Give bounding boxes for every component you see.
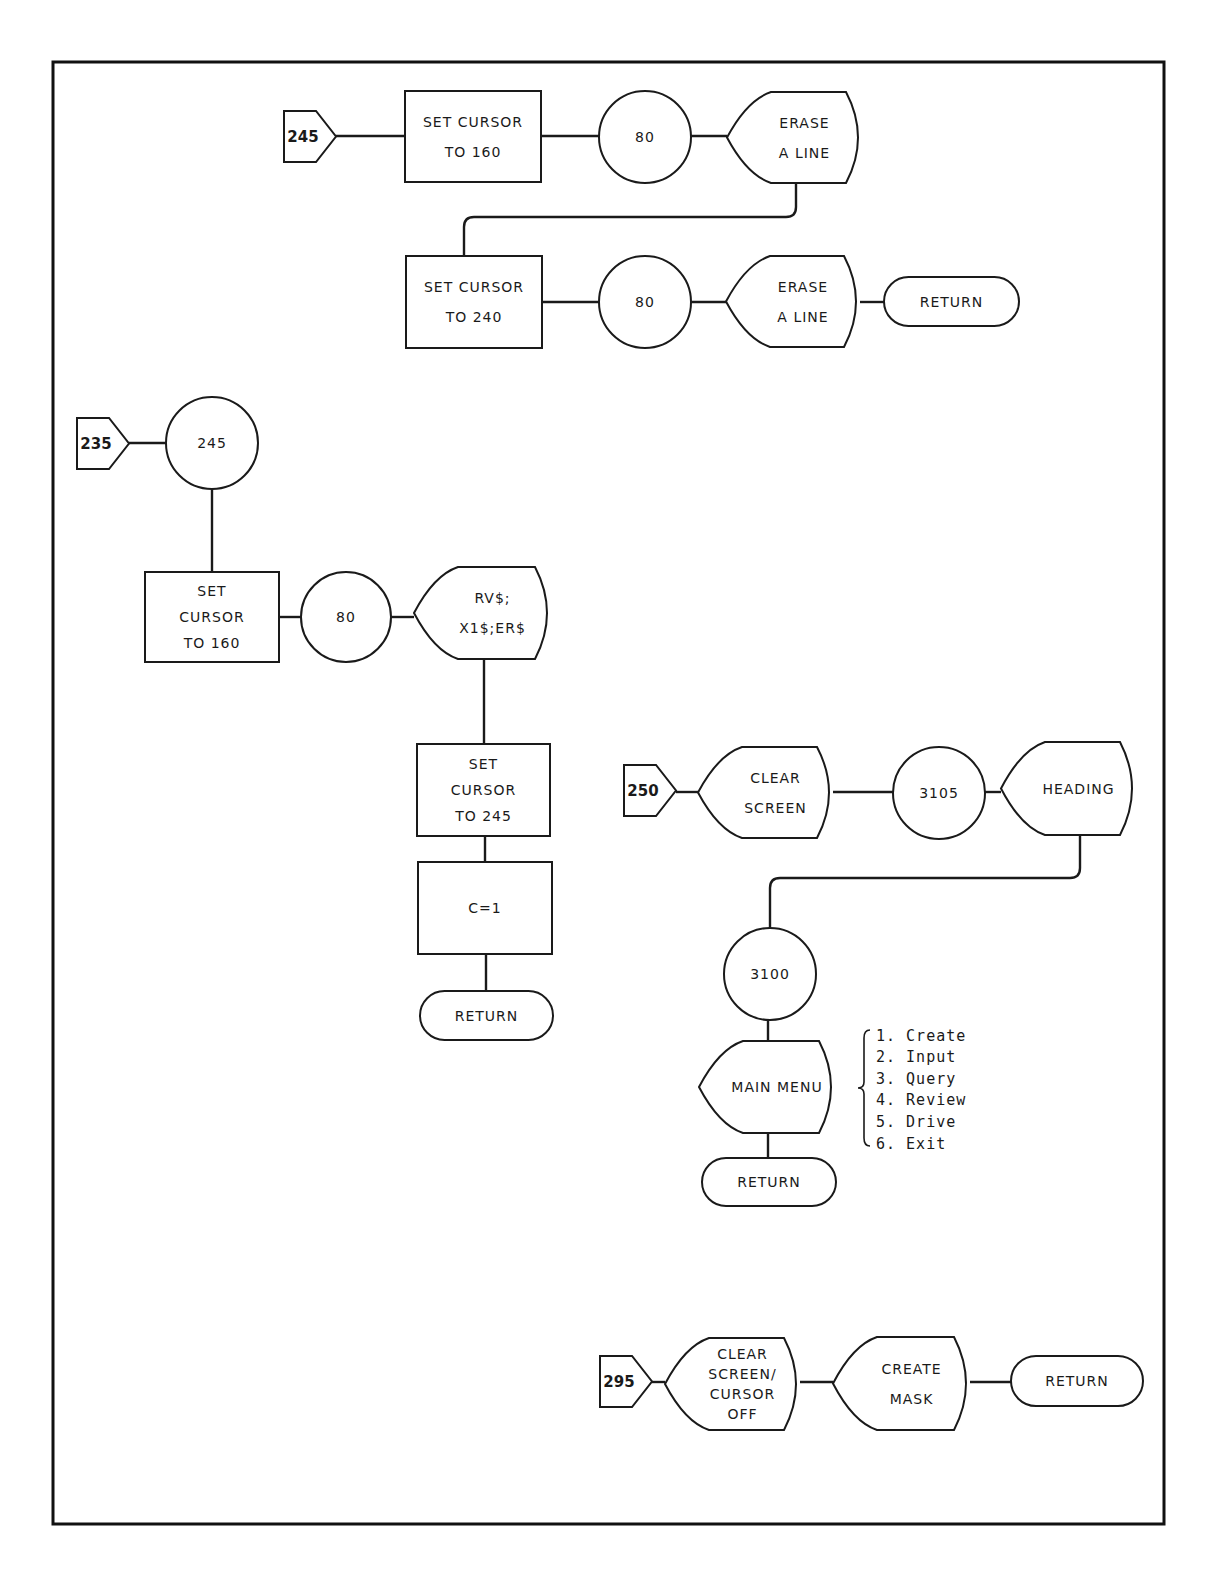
menu-option: 5. Drive [876,1113,956,1131]
node-label-line: HEADING [1042,781,1114,797]
node-label-line: A LINE [779,145,830,161]
node-label-line: TO 240 [445,309,503,325]
f235-call-245[interactable]: 245 [166,397,258,489]
f245-erase-line-b[interactable]: ERASEA LINE [726,256,856,347]
flowchart-canvas: 245SET CURSORTO 16080ERASEA LINESET CURS… [0,0,1212,1569]
node-label-line: 245 [197,435,227,451]
f245-call-80-b[interactable]: 80 [599,256,691,348]
node-label-line: CREATE [881,1361,941,1377]
node-label-line: A LINE [777,309,828,325]
node-label-line: TO 160 [444,144,502,160]
node-label-line: C=1 [468,900,501,916]
node-label-line: 80 [635,294,655,310]
node-label-line: OFF [727,1406,757,1422]
flow-250: 250CLEARSCREEN3105HEADING3100MAIN MENURE… [624,742,1132,1206]
node-label-line: MAIN MENU [731,1079,822,1095]
f245-return[interactable]: RETURN [884,277,1019,326]
node-label-line: 3100 [750,966,790,982]
f245-set-cursor-160[interactable]: SET CURSORTO 160 [405,91,541,182]
node-label-line: ERASE [779,115,829,131]
node-label-line: SET [469,756,498,772]
entry-tag[interactable]: 295 [600,1356,652,1407]
node-label-line: 3105 [919,785,959,801]
main-menu-options: 1. Create2. Input3. Query4. Review5. Dri… [858,1027,966,1153]
node-label-line: CURSOR [179,609,244,625]
node-label-line: 80 [635,129,655,145]
menu-option: 3. Query [876,1070,956,1088]
process-box-shape [406,256,542,348]
node-label-line: CURSOR [710,1386,775,1402]
node-label-line: ERASE [778,279,828,295]
flow-295: 295CLEARSCREEN/CURSOROFFCREATEMASKRETURN [600,1337,1143,1430]
menu-option: 1. Create [876,1027,966,1045]
node-label-line: X1$;ER$ [459,620,526,636]
node-label-line: SCREEN/ [708,1366,776,1382]
f250-heading[interactable]: HEADING [1001,742,1132,835]
entry-tag[interactable]: 245 [284,111,336,162]
f245-call-80-a[interactable]: 80 [599,91,691,183]
node-label-line: SCREEN [744,800,807,816]
menu-option: 4. Review [876,1091,966,1109]
node-label-line: SET [197,583,226,599]
display-shape [726,256,856,347]
f295-return[interactable]: RETURN [1011,1356,1143,1406]
entry-tag-label: 245 [287,128,318,146]
f235-print-rv[interactable]: RV$;X1$;ER$ [414,567,547,659]
f235-set-cursor-160[interactable]: SETCURSORTO 160 [145,572,279,662]
process-box-shape [405,91,541,182]
menu-option: 6. Exit [876,1135,946,1153]
node-label-line: TO 160 [183,635,241,651]
node-label-line: RETURN [920,294,984,310]
node-label-line: 80 [336,609,356,625]
f245-set-cursor-240[interactable]: SET CURSORTO 240 [406,256,542,348]
f245-erase-line-a[interactable]: ERASEA LINE [727,92,858,183]
flow-245: 245SET CURSORTO 16080ERASEA LINESET CURS… [284,91,1019,348]
node-label-line: SET CURSOR [423,114,523,130]
f235-return[interactable]: RETURN [420,991,553,1040]
entry-tag-label: 235 [80,435,111,453]
node-label-line: RETURN [455,1008,519,1024]
f235-c-equals-1[interactable]: C=1 [418,862,552,954]
entry-tag[interactable]: 250 [624,765,676,816]
node-label-line: RETURN [737,1174,801,1190]
node-label-line: CLEAR [750,770,801,786]
node-label-line: SET CURSOR [424,279,524,295]
node-label-line: TO 245 [454,808,512,824]
f295-create-mask[interactable]: CREATEMASK [833,1337,966,1430]
node-label-line: CLEAR [717,1346,768,1362]
f235-set-cursor-245[interactable]: SETCURSORTO 245 [417,744,550,836]
connector-line [464,183,796,256]
curly-brace-icon [858,1030,870,1146]
f250-clear-screen[interactable]: CLEARSCREEN [698,747,829,838]
f250-main-menu[interactable]: MAIN MENU [699,1041,831,1133]
f250-call-3100[interactable]: 3100 [724,928,816,1020]
connector-line [770,835,1080,928]
node-label-line: RETURN [1045,1373,1109,1389]
node-label-line: MASK [890,1391,934,1407]
f250-return[interactable]: RETURN [702,1158,836,1206]
menu-option: 2. Input [876,1048,956,1066]
display-shape [833,1337,966,1430]
node-label-line: CURSOR [451,782,516,798]
f250-call-3105[interactable]: 3105 [893,747,985,839]
display-shape [727,92,858,183]
node-label-line: RV$; [474,590,510,606]
entry-tag-label: 295 [603,1373,634,1391]
display-shape [414,567,547,659]
f235-call-80[interactable]: 80 [301,572,391,662]
f295-clear-screen-cursor-off[interactable]: CLEARSCREEN/CURSOROFF [665,1338,796,1430]
entry-tag[interactable]: 235 [77,418,129,469]
entry-tag-label: 250 [627,782,658,800]
display-shape [698,747,829,838]
flow-235: 235245SETCURSORTO 16080RV$;X1$;ER$SETCUR… [77,397,553,1040]
diagram: 245SET CURSORTO 16080ERASEA LINESET CURS… [77,91,1143,1430]
